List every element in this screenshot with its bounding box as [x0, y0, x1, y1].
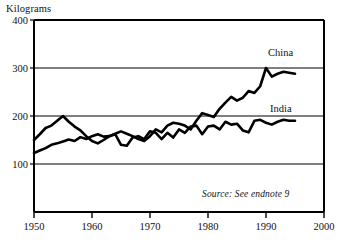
x-tick-label: 1950 — [14, 221, 54, 232]
y-tick-label: 200 — [2, 111, 28, 122]
source-note: Source: See endnote 9 — [202, 189, 289, 200]
y-tick-label: 300 — [2, 63, 28, 74]
x-tick-label: 1980 — [188, 221, 228, 232]
y-tick-label: 400 — [2, 15, 28, 26]
y-axis-unit-label: Kilograms — [6, 3, 51, 15]
chart-plot-area — [0, 0, 340, 250]
x-tick-label: 1990 — [246, 221, 286, 232]
x-tick-label: 1960 — [72, 221, 112, 232]
y-tick-label: 100 — [2, 159, 28, 170]
x-tick-label: 1970 — [130, 221, 170, 232]
chart-container: Kilograms 400300200100 19501960197019801… — [0, 0, 340, 250]
x-tick-label: 2000 — [304, 221, 340, 232]
series-label-china: China — [268, 47, 293, 58]
series-label-india: India — [270, 103, 292, 114]
